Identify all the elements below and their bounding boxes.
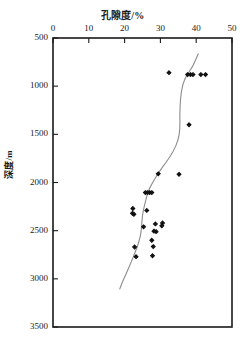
x-tick-label: 30 xyxy=(147,23,173,33)
y-tick-label: 1000 xyxy=(18,80,48,90)
y-tick-label: 3000 xyxy=(18,273,48,283)
data-point xyxy=(131,207,135,211)
data-point xyxy=(145,209,149,213)
x-tick-label: 40 xyxy=(183,23,209,33)
data-point xyxy=(160,224,164,228)
data-point xyxy=(150,191,154,195)
y-tick-label: 2500 xyxy=(18,225,48,235)
y-tick-label: 2000 xyxy=(18,177,48,187)
porosity-depth-figure: 孔隙度/% 深度/m 01020304050 50010001500200025… xyxy=(0,0,245,343)
data-point xyxy=(133,245,137,249)
data-point xyxy=(177,172,181,176)
data-point xyxy=(191,73,195,77)
x-tick-label: 20 xyxy=(112,23,138,33)
data-point xyxy=(150,238,154,242)
data-point xyxy=(199,73,203,77)
data-point xyxy=(142,225,146,229)
y-tick-label: 500 xyxy=(18,32,48,42)
x-tick-label: 10 xyxy=(76,23,102,33)
data-points xyxy=(131,71,208,259)
caption-strip xyxy=(0,335,245,343)
data-point xyxy=(156,172,160,176)
data-point xyxy=(187,123,191,127)
plot-frame xyxy=(53,38,232,327)
plot-area xyxy=(0,0,245,343)
y-tick-label: 3500 xyxy=(18,321,48,331)
data-point xyxy=(153,222,157,226)
data-point xyxy=(151,254,155,258)
data-point xyxy=(151,245,155,249)
trend-line xyxy=(120,53,199,289)
data-point xyxy=(132,212,136,216)
data-point xyxy=(154,230,158,234)
x-tick-label: 50 xyxy=(219,23,245,33)
data-point xyxy=(204,73,208,77)
data-point xyxy=(167,71,171,75)
data-point xyxy=(134,255,138,259)
y-tick-label: 1500 xyxy=(18,128,48,138)
